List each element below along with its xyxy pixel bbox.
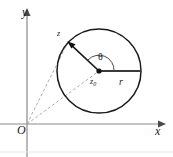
y-axis-label: y xyxy=(22,6,27,18)
center-z0-label: z0 xyxy=(90,78,96,86)
center-z0-subscript: 0 xyxy=(93,81,96,87)
radius-r-label: r xyxy=(119,77,123,87)
radius-vector-to-z xyxy=(71,44,100,71)
angle-theta-label: θ xyxy=(98,52,103,62)
dashed-line-origin-to-z xyxy=(27,42,68,124)
dashed-line-origin-to-center xyxy=(27,71,99,124)
point-z-label: z xyxy=(57,30,60,38)
figure-canvas: y x O z θ r z0 xyxy=(0,0,173,157)
center-point-dot xyxy=(96,68,101,73)
origin-label: O xyxy=(17,124,26,136)
x-axis-label: x xyxy=(155,125,160,137)
